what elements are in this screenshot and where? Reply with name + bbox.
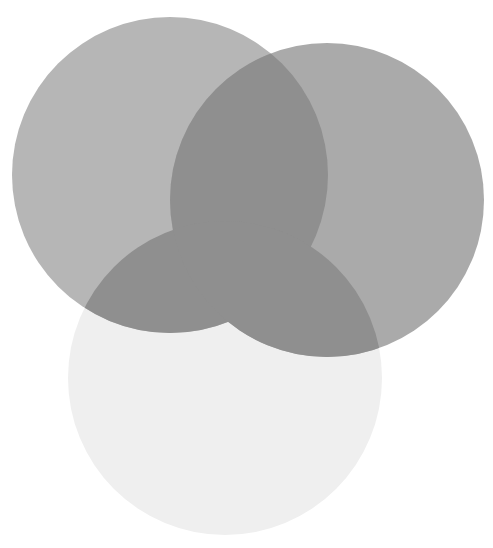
venn-diagram [0, 0, 493, 548]
